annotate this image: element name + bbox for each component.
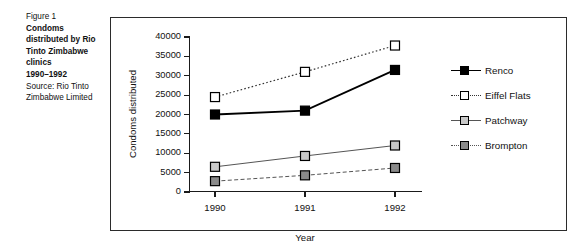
- x-axis-title: Year: [189, 232, 421, 243]
- x-tick: [304, 192, 305, 197]
- legend-label-patchway: Patchway: [485, 115, 527, 126]
- legend-marker-eiffel-flats: [460, 91, 469, 100]
- legend-marker-renco: [460, 66, 469, 75]
- x-tick-label: 1990: [204, 203, 225, 213]
- y-tick-label: 10000: [155, 149, 181, 158]
- data-point-eiffel-flats: [211, 93, 220, 102]
- data-point-renco: [391, 65, 400, 74]
- legend-item-renco[interactable]: Renco: [451, 58, 563, 83]
- legend-marker-patchway: [460, 116, 469, 125]
- figure-caption: Figure 1 Condoms distributed by Rio Tint…: [26, 11, 106, 104]
- y-tick-label: 40000: [155, 32, 181, 41]
- plot-area: 0500010000150002000025000300003500040000…: [189, 37, 421, 192]
- caption-source: Source: Rio Tinto Zimbabwe Limited: [26, 81, 106, 104]
- legend-item-patchway[interactable]: Patchway: [451, 108, 563, 133]
- x-tick-label: 1992: [384, 203, 405, 213]
- chart-series-layer: [189, 37, 421, 192]
- data-point-patchway: [301, 151, 310, 160]
- y-tick-label: 20000: [155, 110, 181, 119]
- caption-title: Condoms distributed by Rio Tinto Zimbabw…: [26, 23, 106, 69]
- y-tick-label: 15000: [155, 129, 181, 138]
- data-point-renco: [211, 110, 220, 119]
- data-point-eiffel-flats: [391, 41, 400, 50]
- x-tick: [214, 192, 215, 197]
- caption-years: 1990–1992: [26, 69, 106, 81]
- figure-frame: Condoms distributed 05000100001500020000…: [110, 17, 567, 231]
- legend-label-eiffel-flats: Eiffel Flats: [485, 90, 531, 101]
- legend-item-brompton[interactable]: Brompton: [451, 133, 563, 158]
- data-point-brompton: [211, 177, 220, 186]
- y-tick-label: 0: [176, 187, 181, 196]
- x-tick-label: 1991: [294, 203, 315, 213]
- data-point-renco: [301, 106, 310, 115]
- data-point-patchway: [211, 162, 220, 171]
- data-point-brompton: [301, 171, 310, 180]
- y-tick-label: 30000: [155, 71, 181, 80]
- y-tick-label: 35000: [155, 52, 181, 61]
- caption-figure-number: Figure 1: [26, 11, 106, 23]
- legend-marker-brompton: [460, 141, 469, 150]
- legend-swatch-brompton: [451, 139, 481, 153]
- chart-legend: RencoEiffel FlatsPatchwayBrompton: [451, 58, 563, 158]
- data-point-eiffel-flats: [301, 67, 310, 76]
- data-point-brompton: [391, 163, 400, 172]
- y-tick-label: 5000: [160, 168, 181, 177]
- legend-swatch-patchway: [451, 114, 481, 128]
- x-tick: [394, 192, 395, 197]
- y-axis-title: Condoms distributed: [127, 37, 138, 192]
- legend-swatch-eiffel-flats: [451, 89, 481, 103]
- legend-label-renco: Renco: [485, 65, 513, 76]
- y-tick-label: 25000: [155, 90, 181, 99]
- legend-swatch-renco: [451, 64, 481, 78]
- data-point-patchway: [391, 141, 400, 150]
- legend-label-brompton: Brompton: [485, 140, 527, 151]
- figure-screenshot: Figure 1 Condoms distributed by Rio Tint…: [0, 0, 576, 247]
- legend-item-eiffel-flats[interactable]: Eiffel Flats: [451, 83, 563, 108]
